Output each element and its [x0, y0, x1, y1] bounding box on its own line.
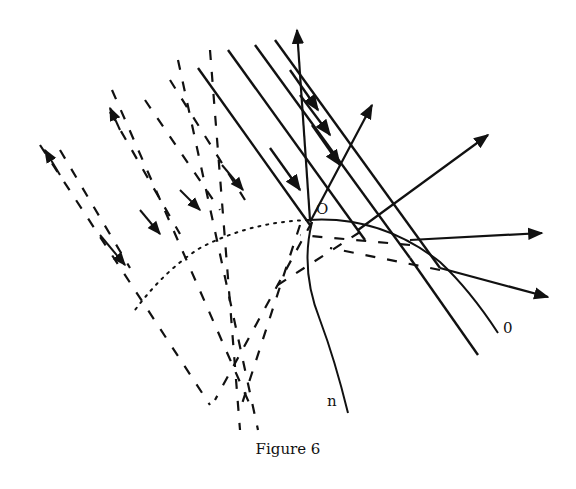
ray-reflection-diagram: O 0 n [0, 0, 576, 489]
virtual-rays [40, 50, 440, 430]
incident-rays [198, 40, 478, 355]
reflected-rays [297, 30, 548, 297]
dotted-wavefront [135, 220, 308, 310]
origin-label: O [316, 200, 328, 218]
figure-caption: Figure 6 [0, 440, 576, 458]
normal-curve-label: n [327, 392, 337, 410]
curve-end-label: 0 [503, 319, 513, 337]
